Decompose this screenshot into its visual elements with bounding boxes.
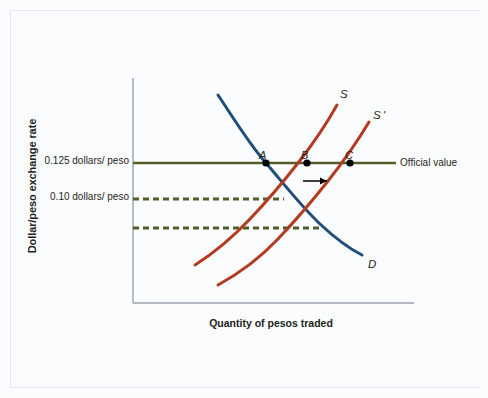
supply-shift-curve <box>218 122 369 285</box>
supply-curve <box>195 105 337 265</box>
official-value-annotation: Official value <box>400 157 457 168</box>
point-label-b: B <box>301 149 308 161</box>
supply-shift-curve-label: S ' <box>373 109 385 121</box>
supply-shift-arrow <box>303 178 327 185</box>
y-tick-label-market-rate: 0.10 dollars/ peso <box>24 191 129 202</box>
point-label-c: C <box>345 149 353 161</box>
y-axis-title: Dollar/peso exchange rate <box>26 91 38 281</box>
x-axis-title: Quantity of pesos traded <box>131 317 411 329</box>
y-tick-label-official-rate: 0.125 dollars/ peso <box>24 155 129 166</box>
figure-container: Dollar/peso exchange rate Quantity of pe… <box>0 0 488 398</box>
supply-curve-label: S <box>340 88 348 100</box>
demand-curve-label: D <box>368 258 376 270</box>
point-label-a: A <box>259 149 266 161</box>
